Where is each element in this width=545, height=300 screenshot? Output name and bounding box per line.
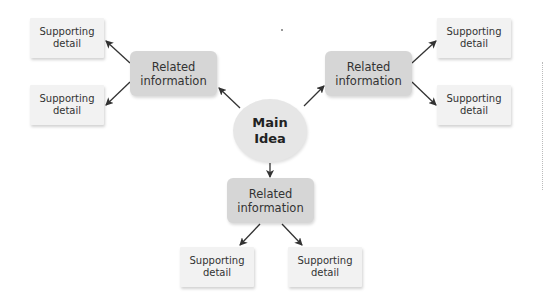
dotted-divider bbox=[542, 62, 543, 190]
related-info-label: Related information bbox=[237, 187, 303, 215]
supporting-detail-left-bottom: Supporting detail bbox=[30, 85, 104, 125]
arrow-right-to-detail-1 bbox=[412, 41, 436, 63]
related-info-bottom: Related information bbox=[227, 178, 314, 223]
arrow-left-to-detail-2 bbox=[106, 82, 130, 105]
supporting-detail-bottom-right: Supporting detail bbox=[288, 247, 362, 287]
supporting-detail-label: Supporting detail bbox=[40, 93, 95, 117]
arrow-bottom-to-detail-1 bbox=[240, 224, 260, 245]
stray-dot bbox=[281, 29, 283, 31]
related-info-left: Related information bbox=[130, 51, 217, 96]
arrow-left-to-detail-1 bbox=[106, 41, 130, 63]
supporting-detail-label: Supporting detail bbox=[447, 93, 502, 117]
arrow-bottom-to-detail-2 bbox=[282, 224, 302, 245]
supporting-detail-label: Supporting detail bbox=[40, 26, 95, 50]
supporting-detail-label: Supporting detail bbox=[190, 255, 245, 279]
supporting-detail-label: Supporting detail bbox=[447, 26, 502, 50]
related-info-label: Related information bbox=[335, 60, 401, 88]
main-idea-node: Main Idea bbox=[233, 99, 307, 162]
main-idea-label: Main Idea bbox=[252, 115, 287, 147]
supporting-detail-right-bottom: Supporting detail bbox=[437, 85, 511, 125]
related-info-right: Related information bbox=[325, 51, 412, 96]
arrow-main-to-right bbox=[304, 86, 324, 106]
supporting-detail-label: Supporting detail bbox=[298, 255, 353, 279]
supporting-detail-bottom-left: Supporting detail bbox=[180, 247, 254, 287]
related-info-label: Related information bbox=[140, 60, 206, 88]
arrow-main-to-left bbox=[219, 88, 240, 108]
supporting-detail-right-top: Supporting detail bbox=[437, 18, 511, 58]
supporting-detail-left-top: Supporting detail bbox=[30, 18, 104, 58]
arrow-right-to-detail-2 bbox=[412, 82, 436, 105]
